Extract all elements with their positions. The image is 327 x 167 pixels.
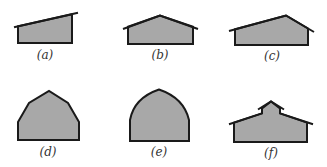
roof-shapes-diagram xyxy=(0,0,327,167)
shape-c-asymmetric-gable-roof xyxy=(229,16,314,46)
label-f: (f) xyxy=(264,146,278,160)
label-c: (c) xyxy=(264,49,280,63)
shape-f-monitor-roof xyxy=(229,102,313,143)
label-d: (d) xyxy=(39,145,56,159)
label-a: (a) xyxy=(37,48,54,62)
label-e: (e) xyxy=(151,145,167,159)
shape-b-gable-roof xyxy=(123,16,198,45)
label-b: (b) xyxy=(151,48,168,62)
shape-a-shed-roof xyxy=(14,13,78,43)
shape-e-gothic-arch-roof xyxy=(130,90,189,142)
shape-d-gambrel-roof xyxy=(18,91,79,140)
